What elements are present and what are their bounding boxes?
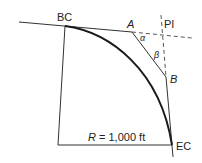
label-alpha: α xyxy=(140,33,146,43)
label-radius: R = 1,000 ft xyxy=(88,131,145,143)
radius-line-bc xyxy=(58,26,65,145)
label-ec: EC xyxy=(176,140,191,152)
label-point-a: A xyxy=(126,18,134,30)
label-beta: β xyxy=(153,50,159,60)
curve-diagram: BC A PI α β B EC R = 1,000 ft xyxy=(0,0,202,163)
label-pi: PI xyxy=(164,18,174,30)
label-point-b: B xyxy=(170,73,177,85)
line-a-b xyxy=(132,32,166,77)
label-bc: BC xyxy=(57,11,72,23)
circular-curve xyxy=(65,26,172,145)
